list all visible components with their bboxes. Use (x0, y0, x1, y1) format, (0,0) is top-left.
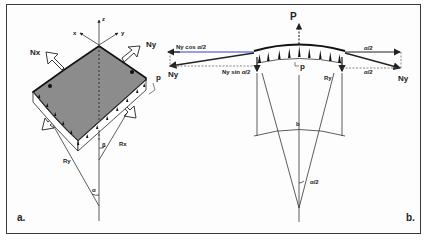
label-p-b: p (300, 62, 305, 71)
force-arrow-nx-top (46, 52, 64, 70)
panel-a: z x y Nx (30, 16, 161, 221)
label-ny-left: Ny (168, 70, 179, 79)
radius-lines-b (254, 73, 345, 222)
label-center-angle: α/2 (310, 179, 319, 185)
panel-b: P p Ny cos α/2 Ny sin α/2 Ny α/2 α/2 (168, 11, 409, 222)
label-alpha: α (92, 187, 96, 193)
label-p: p (156, 73, 161, 82)
panel-a-label: a. (17, 212, 26, 223)
axis-y-label: y (121, 30, 125, 36)
label-ny-right: Ny (398, 74, 409, 83)
axis-x-label: x (73, 30, 77, 36)
label-ny: Ny (146, 40, 157, 49)
label-nx: Nx (30, 48, 41, 57)
label-ry-b: Ry (324, 75, 332, 81)
label-alpha-top: α/2 (364, 45, 373, 51)
label-rx: Rx (119, 141, 127, 147)
label-beta: β (102, 142, 106, 148)
label-b: b (296, 121, 300, 127)
force-arrow-ny-top (122, 46, 140, 62)
label-ny-cos: Ny cos α/2 (176, 44, 207, 50)
label-P: P (290, 11, 297, 22)
label-ny-sin: Ny sin α/2 (222, 69, 251, 75)
axes-icon (80, 20, 118, 45)
label-ry: Ry (63, 158, 71, 164)
label-alpha-bottom: α/2 (364, 69, 373, 75)
panel-b-label: b. (406, 212, 415, 223)
diagram-canvas: z x y Nx (0, 0, 427, 240)
axis-z-label: z (102, 16, 105, 22)
